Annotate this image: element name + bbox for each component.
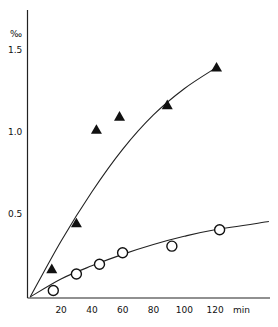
- x-tick-label: 80: [148, 305, 159, 315]
- triangle-marker: [211, 62, 222, 72]
- triangle-marker: [91, 124, 102, 134]
- circle-marker: [95, 259, 105, 269]
- circle-marker: [215, 225, 225, 235]
- y-axis-unit: ‰: [10, 29, 22, 39]
- triangle-fit-curve: [30, 67, 216, 297]
- circle-marker: [71, 269, 81, 279]
- x-tick-label: 40: [86, 305, 97, 315]
- chart-plot: [0, 0, 278, 327]
- triangle-marker: [114, 111, 125, 121]
- fitted-curves: [30, 67, 269, 297]
- data-points: [46, 62, 224, 296]
- circle-marker: [118, 248, 128, 258]
- axes: [28, 10, 271, 298]
- x-tick-label: 120: [207, 305, 224, 315]
- triangle-marker: [162, 100, 173, 110]
- circle-marker: [167, 241, 177, 251]
- circle-marker: [48, 285, 58, 295]
- x-tick-label: 20: [55, 305, 66, 315]
- x-tick-label: 100: [176, 305, 193, 315]
- y-tick-label: 1.0: [8, 127, 22, 137]
- y-tick-label: 0.5: [8, 209, 22, 219]
- y-tick-label: 1.5: [8, 45, 22, 55]
- x-tick-label: 60: [117, 305, 128, 315]
- x-axis-unit: min: [233, 305, 250, 315]
